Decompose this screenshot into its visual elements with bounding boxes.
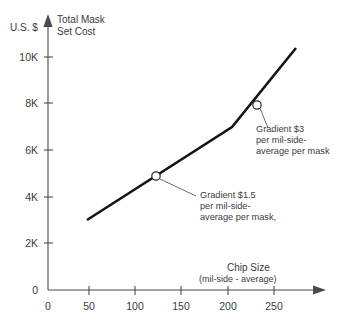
upper-marker: [253, 101, 261, 109]
y-tick-label-8k: 8K: [8, 97, 38, 110]
annotation-gradient-3-line3: average per mask: [256, 146, 330, 157]
y-axis-title-line2: Set Cost: [57, 26, 95, 38]
y-tick-label-6k: 6K: [8, 144, 38, 157]
x-tick-label-50: 50: [74, 300, 104, 313]
annotation-gradient-3-line1: Gradient $3: [256, 124, 304, 135]
x-axis-title: Chip Size: [227, 262, 270, 274]
annotation-gradient-3-line2: per mil-side-: [256, 135, 307, 146]
x-axis-subtitle: (mil-side - average): [199, 274, 277, 285]
y-tick-label-10k: 10K: [8, 51, 38, 64]
chart-figure: U.S. $ Total Mask Set Cost 10K 8K 6K 4K …: [0, 0, 339, 330]
x-tick-label-250: 250: [259, 300, 289, 313]
x-tick-label-100: 100: [120, 300, 150, 313]
chart-plot-area: [0, 0, 339, 330]
x-tick-label-200: 200: [213, 300, 243, 313]
x-axis-arrow-icon: [313, 285, 326, 294]
y-tick-label-0: 0: [8, 284, 38, 297]
y-axis-unit-label: U.S. $: [10, 22, 38, 34]
annotation-gradient-1-5-line1: Gradient $1.5: [200, 190, 256, 201]
x-tick-label-0: 0: [33, 300, 63, 313]
annotation-gradient-1-5-line2: per mil-side-: [200, 201, 251, 212]
y-tick-label-2k: 2K: [8, 237, 38, 250]
lower-marker-leader: [160, 179, 196, 196]
annotation-gradient-1-5-line3: average per mask,: [200, 212, 276, 223]
y-tick-label-4k: 4K: [8, 191, 38, 204]
y-axis-title-line1: Total Mask: [57, 14, 105, 26]
lower-marker: [152, 172, 160, 180]
y-axis-arrow-icon: [43, 14, 52, 27]
x-tick-label-150: 150: [166, 300, 196, 313]
